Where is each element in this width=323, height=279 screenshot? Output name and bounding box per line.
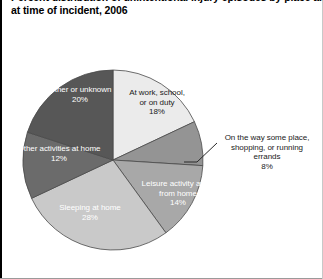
- slice-label-leisure-activity-away-from-home: Leisure activity away from home 14%: [135, 179, 221, 208]
- chart-title: Percent distribution of unintentional in…: [11, 0, 311, 17]
- slice-value-other-activities-at-home: 12%: [5, 154, 113, 164]
- slice-value-on-the-way: 8%: [261, 162, 272, 171]
- slice-label-leisure-line1: Leisure activity away: [142, 179, 215, 188]
- slice-label-on-the-way-line3: errands: [254, 152, 281, 161]
- slice-label-at-work-line1: At work, school,: [129, 88, 185, 97]
- slice-label-on-the-way-line2: shopping, or running: [231, 143, 303, 152]
- slice-label-on-the-way-line1: On the way some place,: [225, 133, 310, 142]
- slice-label-at-work: At work, school, or on duty 18%: [118, 88, 196, 117]
- chart-page: Percent distribution of unintentional in…: [0, 0, 323, 279]
- slice-label-other-or-unknown: Other or unknown 20%: [34, 85, 126, 104]
- slice-value-other-or-unknown: 20%: [34, 95, 126, 105]
- slice-label-sleeping-at-home: Sleeping at home 28%: [41, 203, 139, 222]
- slice-label-leisure-line2: from home: [159, 189, 197, 198]
- chart-title-line-2: at time of incident, 2006: [11, 4, 311, 17]
- slice-label-other-activities-at-home-line1: Other activities at home: [18, 144, 101, 153]
- slice-label-sleeping-at-home-line1: Sleeping at home: [59, 203, 120, 212]
- slice-value-leisure: 14%: [135, 198, 221, 208]
- slice-label-other-or-unknown-line1: Other or unknown: [49, 85, 112, 94]
- frame-left-border: [0, 0, 2, 279]
- slice-label-at-work-line2: or on duty: [139, 98, 174, 107]
- slice-value-at-work: 18%: [118, 107, 196, 117]
- slice-value-sleeping-at-home: 28%: [41, 213, 139, 223]
- slice-label-on-the-way: On the way some place, shopping, or runn…: [214, 133, 320, 171]
- slice-label-other-activities-at-home: Other activities at home 12%: [5, 144, 113, 163]
